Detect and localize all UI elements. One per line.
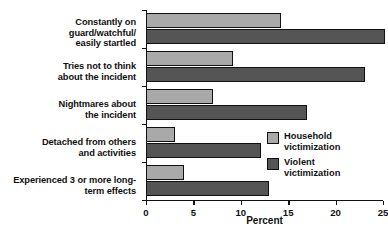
category-label-line: guard/watchful/ bbox=[0, 28, 136, 39]
category-label-tries-not-to-think: Tries not to think about the incident bbox=[0, 61, 136, 82]
category-label-three-or-more-effects: Experienced 3 or more long- term effects bbox=[0, 175, 136, 196]
legend-item-household: Household victimization bbox=[267, 131, 385, 152]
bar-violent-nightmares bbox=[146, 105, 307, 120]
bar-violent-constantly-on-guard bbox=[146, 29, 385, 44]
chart-legend: Household victimization Violent victimiz… bbox=[267, 131, 385, 183]
x-axis-tick bbox=[146, 201, 147, 205]
bar-violent-tries-not-to-think bbox=[146, 67, 365, 82]
category-label-line: Constantly on bbox=[0, 17, 136, 28]
category-label-nightmares: Nightmares about the incident bbox=[0, 99, 136, 120]
category-label-line: about the incident bbox=[0, 72, 136, 83]
category-label-line: Detached from others bbox=[0, 137, 136, 148]
legend-label-line: victimization bbox=[284, 168, 340, 178]
x-axis-line bbox=[146, 200, 383, 201]
category-label-line: and activities bbox=[0, 148, 136, 159]
bar-household-three-or-more-effects bbox=[146, 165, 184, 180]
category-label-line: easily startled bbox=[0, 38, 136, 49]
bar-household-nightmares bbox=[146, 89, 213, 104]
x-axis-tick bbox=[193, 201, 194, 205]
x-axis-tick bbox=[336, 201, 337, 205]
bar-violent-three-or-more-effects bbox=[146, 181, 269, 196]
category-label-line: Nightmares about bbox=[0, 99, 136, 110]
y-axis-tick bbox=[142, 162, 146, 163]
x-axis-tick bbox=[288, 201, 289, 205]
x-axis-title: Percent bbox=[146, 215, 383, 226]
bar-violent-detached bbox=[146, 143, 261, 158]
legend-label-line: Household bbox=[284, 131, 332, 141]
bar-household-constantly-on-guard bbox=[146, 13, 281, 28]
legend-swatch-icon bbox=[267, 158, 279, 170]
y-axis-tick bbox=[142, 124, 146, 125]
category-label-constantly-on-guard: Constantly on guard/watchful/ easily sta… bbox=[0, 17, 136, 49]
category-label-line: the incident bbox=[0, 110, 136, 121]
legend-label-household: Household victimization bbox=[284, 131, 340, 152]
legend-label-line: Violent bbox=[284, 157, 315, 167]
category-axis-labels: Constantly on guard/watchful/ easily sta… bbox=[0, 10, 141, 200]
category-label-line: term effects bbox=[0, 186, 136, 197]
y-axis-tick bbox=[142, 48, 146, 49]
category-label-line: Tries not to think bbox=[0, 61, 136, 72]
legend-item-violent: Violent victimization bbox=[267, 157, 385, 178]
x-axis-tick bbox=[383, 201, 384, 205]
category-label-detached: Detached from others and activities bbox=[0, 137, 136, 158]
x-axis-tick bbox=[241, 201, 242, 205]
legend-label-line: victimization bbox=[284, 142, 340, 152]
legend-swatch-icon bbox=[267, 132, 279, 144]
category-label-line: Experienced 3 or more long- bbox=[0, 175, 136, 186]
bar-household-tries-not-to-think bbox=[146, 51, 233, 66]
legend-label-violent: Violent victimization bbox=[284, 157, 340, 178]
y-axis-tick bbox=[142, 10, 146, 11]
bar-household-detached bbox=[146, 127, 175, 142]
y-axis-tick bbox=[142, 86, 146, 87]
